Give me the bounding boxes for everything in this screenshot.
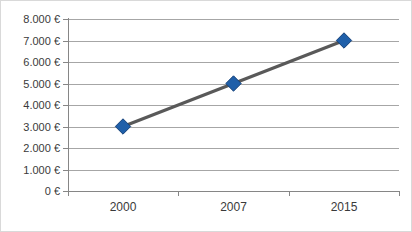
data-point-marker-2015 [336,33,351,48]
data-series [1,1,412,232]
data-point-marker-2007 [226,76,241,91]
line-chart: 8.000 € 7.000 € 6.000 € 5.000 € 4.000 € … [0,0,412,232]
data-point-marker-2000 [115,119,130,134]
